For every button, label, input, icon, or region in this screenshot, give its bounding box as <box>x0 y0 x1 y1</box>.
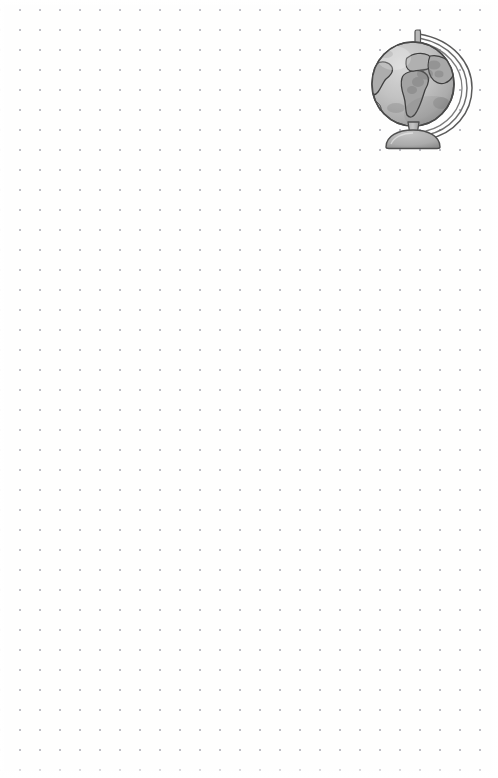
globe-base-icon <box>386 130 440 149</box>
notebook-page: Desk globe on stand <box>0 0 498 778</box>
globe-illustration <box>362 18 480 150</box>
